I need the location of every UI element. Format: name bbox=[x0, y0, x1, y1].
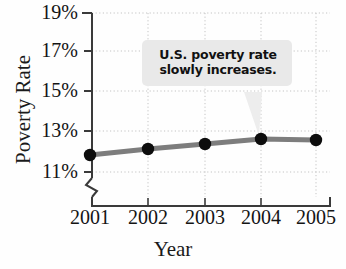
data-point-2001 bbox=[84, 149, 96, 161]
data-point-2005 bbox=[310, 134, 322, 146]
data-point-2003 bbox=[199, 138, 211, 150]
y-axis-ticks bbox=[82, 13, 92, 172]
callout-tail bbox=[244, 92, 262, 136]
y-axis-spine bbox=[86, 13, 97, 197]
callout-line-1: U.S. poverty rate bbox=[152, 47, 284, 62]
poverty-rate-line-chart: Poverty Rate 19% 17% 15% 13% 11% 2001 20… bbox=[0, 0, 346, 269]
x-axis-spine bbox=[92, 197, 330, 206]
annotation-callout: U.S. poverty rate slowly increases. bbox=[142, 40, 292, 86]
data-point-2004 bbox=[255, 133, 267, 145]
horizontal-gridlines bbox=[92, 13, 330, 172]
x-axis-ticks bbox=[148, 198, 261, 206]
data-point-2002 bbox=[142, 143, 154, 155]
callout-line-2: slowly increases. bbox=[152, 62, 284, 77]
